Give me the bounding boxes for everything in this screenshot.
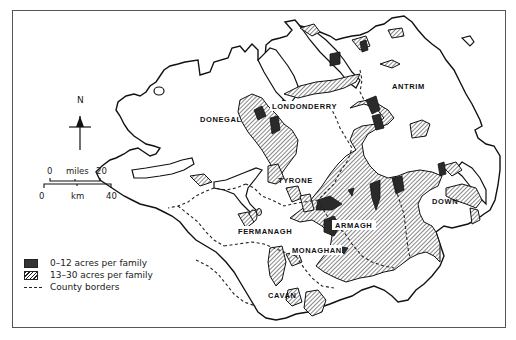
legend-label: County borders xyxy=(50,282,119,292)
scale-km-label: km xyxy=(71,191,84,201)
scale-km-end: 40 xyxy=(106,191,117,201)
scale-km-start: 0 xyxy=(39,191,44,201)
legend-label: 0–12 acres per family xyxy=(50,258,147,268)
scale-miles-end: 20 xyxy=(96,166,107,176)
county-label-monaghan: MONAGHAN xyxy=(292,246,342,255)
county-label-fermanagh: FERMANAGH xyxy=(238,227,292,236)
legend-label: 13–30 acres per family xyxy=(50,270,153,280)
legend-item-hatch: 13–30 acres per family xyxy=(24,269,153,281)
north-arrow-icon xyxy=(69,116,91,150)
legend-item-dark: 0–12 acres per family xyxy=(24,257,153,269)
legend-item-dash: County borders xyxy=(24,281,153,293)
county-label-armagh: ARMAGH xyxy=(335,221,372,230)
compass-north-label: N xyxy=(77,95,84,105)
county-label-cavan: CAVAN xyxy=(268,291,297,300)
county-label-tyrone: TYRONE xyxy=(278,176,313,185)
county-label-antrim: ANTRIM xyxy=(392,82,425,91)
legend: 0–12 acres per family 13–30 acres per fa… xyxy=(24,257,153,293)
dark-swatch-icon xyxy=(24,259,38,268)
hatch-swatch-icon xyxy=(24,271,38,280)
scale-miles-start: 0 xyxy=(47,166,52,176)
county-label-down: DOWN xyxy=(432,197,458,206)
county-label-londonderry: LONDONDERRY xyxy=(272,102,337,111)
dashed-line-icon xyxy=(24,287,42,288)
county-label-donegal: DONEGAL xyxy=(200,115,242,124)
scale-miles-label: miles xyxy=(66,166,89,176)
